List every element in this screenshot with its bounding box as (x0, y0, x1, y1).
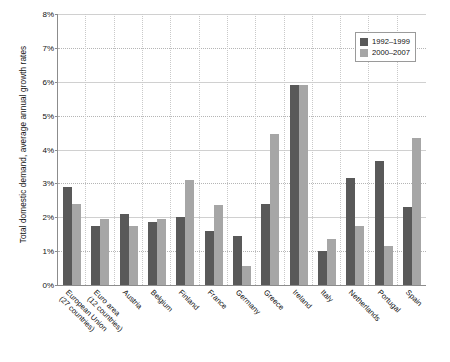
bar (63, 187, 72, 285)
legend-swatch (360, 38, 368, 46)
legend-item[interactable]: 2000–2007 (360, 47, 410, 58)
bar (214, 205, 223, 285)
bar (375, 161, 384, 285)
bar (290, 85, 299, 285)
bar (176, 217, 185, 285)
x-label-slot: Portugal (368, 288, 396, 362)
legend-swatch (360, 49, 368, 57)
bar (346, 178, 355, 285)
bar (355, 226, 364, 285)
bar-group (285, 14, 313, 285)
x-label-slot: Spain (397, 288, 425, 362)
x-label-slot: Greece (255, 288, 283, 362)
bar-group (200, 14, 228, 285)
y-tick-label: 6% (8, 77, 54, 86)
x-label-slot: European Union(27 countries) (57, 288, 85, 362)
bar (72, 204, 81, 285)
x-label-slot: Italy (312, 288, 340, 362)
bar-group (143, 14, 171, 285)
legend-label: 2000–2007 (372, 48, 410, 57)
y-tick-label: 5% (8, 111, 54, 120)
y-tick-mark (55, 285, 58, 286)
bar-group (115, 14, 143, 285)
legend-item[interactable]: 1992–1999 (360, 36, 410, 47)
bar (412, 138, 421, 285)
bar (270, 134, 279, 285)
x-tick-label: Italy (319, 288, 335, 304)
bar-group (313, 14, 341, 285)
x-label-slot: Ireland (284, 288, 312, 362)
bar-group (58, 14, 86, 285)
y-tick-label: 4% (8, 145, 54, 154)
x-label-slot: Netherlands (340, 288, 368, 362)
x-tick-label: Spain (404, 288, 424, 308)
x-label-slot: Belgium (142, 288, 170, 362)
bar-group (228, 14, 256, 285)
bar (318, 251, 327, 285)
x-tick-label: France (206, 288, 229, 311)
bar (157, 219, 166, 285)
bar (148, 222, 157, 285)
legend-label: 1992–1999 (372, 37, 410, 46)
x-label-slot: Finland (170, 288, 198, 362)
x-tick-label: Ireland (291, 288, 314, 311)
x-label-slot: Euro area(12 countries) (85, 288, 113, 362)
bar (327, 239, 336, 285)
bar (91, 226, 100, 285)
x-axis-labels: European Union(27 countries)Euro area(12… (57, 288, 425, 362)
y-tick-label: 3% (8, 179, 54, 188)
y-tick-label: 1% (8, 247, 54, 256)
y-tick-label: 7% (8, 43, 54, 52)
bar-group (86, 14, 114, 285)
x-label-slot: Germany (227, 288, 255, 362)
bar (205, 231, 214, 285)
y-tick-label: 8% (8, 10, 54, 19)
bar (261, 204, 270, 285)
x-tick-label: Austria (121, 288, 144, 311)
y-tick-label: 0% (8, 281, 54, 290)
bar (242, 266, 251, 285)
bar (233, 236, 242, 285)
bar-group (256, 14, 284, 285)
bar (384, 246, 393, 285)
y-tick-label: 2% (8, 213, 54, 222)
bar (299, 85, 308, 285)
bar (403, 207, 412, 285)
legend: 1992–19992000–2007 (355, 32, 416, 62)
bar (129, 226, 138, 285)
x-label-slot: Austria (114, 288, 142, 362)
bar-chart: Total domestic demand, average annual gr… (0, 0, 450, 362)
bar (120, 214, 129, 285)
x-label-slot: France (199, 288, 227, 362)
bar (100, 219, 109, 285)
bar (185, 180, 194, 285)
bar-group (171, 14, 199, 285)
